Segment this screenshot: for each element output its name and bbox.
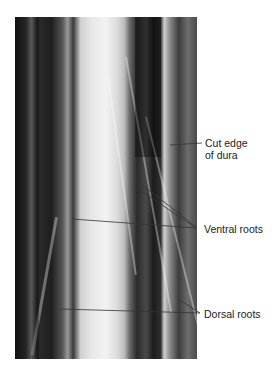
label-cut-edge-line2: of dura	[205, 149, 238, 161]
label-cut-edge-line1: Cut edge	[205, 137, 248, 149]
label-ventral-roots: Ventral roots	[204, 223, 263, 235]
label-dorsal-roots: Dorsal roots	[204, 308, 261, 320]
anatomy-figure: Cut edge of dura Ventral roots Dorsal ro…	[0, 0, 278, 372]
